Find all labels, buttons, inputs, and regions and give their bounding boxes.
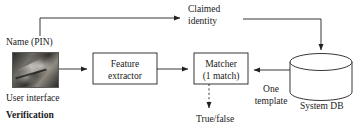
claimed-identity-label: Claimedidentity (188, 4, 240, 27)
feature-extractor-line1: Feature (111, 59, 140, 69)
matcher-label: Matcher(1 match) (194, 58, 248, 82)
user-interface-capture-thumbnail (12, 52, 59, 88)
true-false-label: True/false (196, 114, 234, 125)
user-interface-label: User interface (6, 93, 60, 104)
feature-extractor-line2: extractor (108, 71, 142, 81)
claimed-identity-line2: identity (188, 16, 217, 26)
matcher-line1: Matcher (205, 59, 237, 69)
one-template-label: Onetemplate (249, 84, 293, 107)
matcher-line2: (1 match) (203, 71, 240, 81)
edge-claimed-identity-to-system-db (243, 19, 321, 50)
verification-caption: Verification (6, 110, 54, 121)
system-db-cylinder (290, 54, 352, 101)
feature-extractor-label: Featureextractor (93, 58, 157, 82)
verification-diagram: Claimedidentity Name (PIN) User interfac… (0, 0, 362, 130)
name-pin-label: Name (PIN) (6, 37, 53, 48)
claimed-identity-line1: Claimed (188, 4, 220, 14)
system-db-label: System DB (300, 101, 344, 112)
one-template-line2: template (255, 96, 288, 106)
one-template-line1: One (263, 84, 279, 94)
edge-name-to-claimed-identity (40, 18, 180, 36)
